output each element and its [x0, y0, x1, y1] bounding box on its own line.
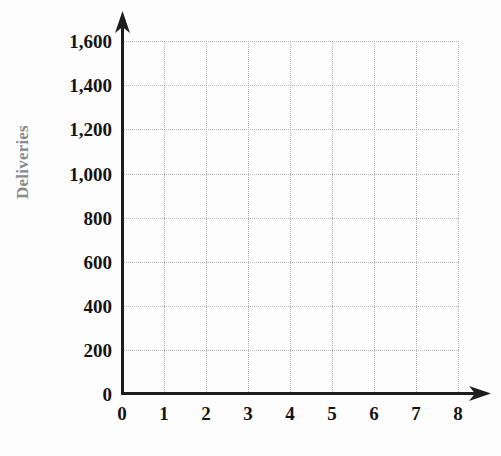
x-tick-label-4: 4 — [270, 404, 310, 423]
x-tick-label-2: 2 — [186, 404, 226, 423]
x-tick-label-5: 5 — [312, 404, 352, 423]
x-tick-label-8: 8 — [438, 404, 478, 423]
x-tick-label-6: 6 — [354, 404, 394, 423]
x-tick-label-0: 0 — [102, 404, 142, 423]
x-tick-label-7: 7 — [396, 404, 436, 423]
chart-screenshot: Deliveries 1,600 1,400 — [0, 0, 501, 456]
x-tick-label-3: 3 — [228, 404, 268, 423]
x-tick-label-1: 1 — [144, 404, 184, 423]
x-axis-tick-labels: 0 1 2 3 4 5 6 7 8 — [0, 0, 501, 456]
